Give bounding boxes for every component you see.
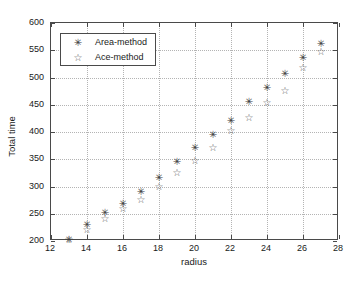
tick-mark-x (231, 23, 232, 27)
data-point-ace: ☆ (209, 143, 218, 152)
gridline-horizontal (51, 78, 337, 79)
tick-mark-x (267, 23, 268, 27)
gridline-horizontal (51, 187, 337, 188)
tick-mark-x (195, 235, 196, 239)
tick-mark-y (51, 105, 55, 106)
tick-mark-y (333, 78, 337, 79)
x-tick-label: 28 (333, 243, 343, 253)
gridline-horizontal (51, 132, 337, 133)
tick-mark-y (51, 187, 55, 188)
tick-mark-y (333, 241, 337, 242)
data-point-ace: ☆ (137, 195, 146, 204)
x-axis-title: radius (50, 256, 338, 267)
gridline-horizontal (51, 105, 337, 106)
data-point-ace: ☆ (65, 235, 74, 244)
gridline-horizontal (51, 214, 337, 215)
x-tick-label: 26 (297, 243, 307, 253)
tick-mark-y (51, 50, 55, 51)
legend-entry-ace-method: ☆ Ace-method (61, 50, 157, 65)
tick-mark-y (333, 50, 337, 51)
x-tick-label: 12 (45, 243, 55, 253)
ace-method-marker-icon: ☆ (73, 50, 83, 65)
tick-mark-x (339, 235, 340, 239)
gridline-horizontal (51, 159, 337, 160)
x-tick-label: 20 (189, 243, 199, 253)
data-point-ace: ☆ (173, 168, 182, 177)
tick-mark-x (159, 23, 160, 27)
tick-mark-x (159, 235, 160, 239)
tick-mark-y (333, 132, 337, 133)
y-tick-label: 200 (0, 235, 44, 245)
gridline-vertical (195, 23, 196, 239)
data-point-ace: ☆ (281, 86, 290, 95)
x-tick-label: 14 (81, 243, 91, 253)
legend-entry-area-method: ✳ Area-method (61, 35, 157, 50)
tick-mark-y (51, 159, 55, 160)
chart-figure: ✳✳✳✳✳✳✳✳✳✳✳✳✳✳✳☆☆☆☆☆☆☆☆☆☆☆☆☆☆☆ 121416182… (0, 0, 357, 281)
tick-mark-y (333, 105, 337, 106)
tick-mark-x (87, 23, 88, 27)
y-tick-label: 250 (0, 208, 44, 218)
gridline-vertical (231, 23, 232, 239)
gridline-vertical (303, 23, 304, 239)
y-tick-label: 300 (0, 181, 44, 191)
tick-mark-y (333, 23, 337, 24)
data-point-ace: ☆ (245, 113, 254, 122)
legend-label-ace-method: Ace-method (95, 50, 144, 65)
chart-legend: ✳ Area-method ☆ Ace-method (60, 33, 156, 66)
tick-mark-x (51, 235, 52, 239)
tick-mark-x (231, 235, 232, 239)
tick-mark-y (51, 132, 55, 133)
data-point-ace: ☆ (317, 47, 326, 56)
x-tick-label: 24 (261, 243, 271, 253)
tick-mark-x (87, 235, 88, 239)
tick-mark-x (267, 235, 268, 239)
x-tick-label: 18 (153, 243, 163, 253)
y-tick-label: 500 (0, 72, 44, 82)
tick-mark-y (333, 159, 337, 160)
tick-mark-y (333, 214, 337, 215)
tick-mark-x (339, 23, 340, 27)
tick-mark-y (51, 214, 55, 215)
data-point-ace: ☆ (101, 214, 110, 223)
tick-mark-x (123, 23, 124, 27)
tick-mark-x (123, 235, 124, 239)
tick-mark-x (303, 235, 304, 239)
data-point-area: ✳ (101, 208, 110, 217)
tick-mark-x (303, 23, 304, 27)
gridline-vertical (159, 23, 160, 239)
data-point-area: ✳ (65, 235, 74, 244)
data-point-area: ✳ (137, 187, 146, 196)
y-tick-label: 600 (0, 17, 44, 27)
tick-mark-y (51, 78, 55, 79)
data-point-area: ✳ (281, 69, 290, 78)
y-tick-label: 550 (0, 44, 44, 54)
tick-mark-y (333, 187, 337, 188)
area-method-marker-icon: ✳ (73, 35, 83, 50)
gridline-vertical (267, 23, 268, 239)
tick-mark-y (51, 23, 55, 24)
legend-label-area-method: Area-method (95, 35, 147, 50)
x-tick-label: 22 (225, 243, 235, 253)
tick-mark-x (195, 23, 196, 27)
data-point-area: ✳ (317, 39, 326, 48)
y-axis-title: Total time (6, 107, 17, 167)
x-tick-label: 16 (117, 243, 127, 253)
tick-mark-y (51, 241, 55, 242)
